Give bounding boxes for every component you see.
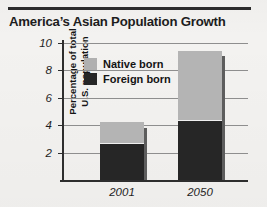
y-tick-4: 4 (58, 125, 63, 126)
plot-area: Percentage of total U.S. population 10 8… (62, 40, 248, 181)
legend-item-foreign-born: Foreign born (84, 71, 171, 86)
bar-segment-2001-native (100, 122, 144, 144)
bar-segment-2050-native (178, 51, 222, 121)
page-title: America’s Asian Population Growth (9, 14, 259, 29)
y-tick-6: 6 (58, 98, 63, 99)
y-tick-2: 2 (58, 153, 63, 154)
y-tick-8: 8 (58, 70, 63, 71)
x-tick-label-2050: 2050 (170, 186, 230, 198)
y-tick-label-4: 4 (46, 119, 52, 131)
y-tick-label-2: 2 (46, 147, 52, 159)
legend-swatch-native-born-icon (84, 58, 97, 70)
bar-2001 (100, 122, 144, 180)
legend-swatch-foreign-born-icon (84, 73, 97, 85)
legend-label-foreign-born: Foreign born (103, 73, 171, 85)
title-rule (8, 7, 251, 10)
x-tick-label-2001: 2001 (92, 186, 152, 198)
bar-2050 (178, 51, 222, 180)
y-tick-label-10: 10 (39, 37, 52, 49)
y-axis-line (62, 40, 64, 181)
bar-segment-2050-foreign (178, 121, 222, 180)
y-tick-label-8: 8 (46, 64, 52, 76)
y-tick-label-6: 6 (46, 92, 52, 104)
chart-legend: Native born Foreign born (84, 56, 171, 86)
y-axis-title-line1: Percentage of total (67, 18, 79, 126)
legend-label-native-born: Native born (103, 58, 164, 70)
gridline-10 (62, 43, 248, 44)
chart-figure: America’s Asian Population Growth Percen… (0, 0, 267, 207)
y-tick-10: 10 (58, 43, 63, 44)
legend-item-native-born: Native born (84, 56, 171, 71)
bar-segment-2001-foreign (100, 144, 144, 180)
x-axis-line (60, 180, 248, 182)
